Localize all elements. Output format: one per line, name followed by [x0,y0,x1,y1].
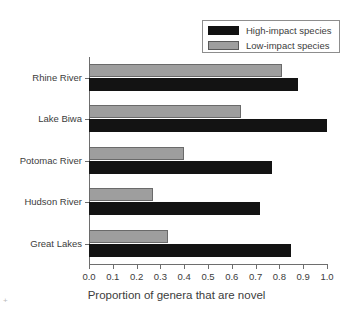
x-axis-tick [256,265,257,269]
bar-low-impact [89,188,153,201]
x-axis-tick [327,265,328,269]
x-axis-ticks: 0.00.10.20.30.40.50.60.70.80.91.0 [89,265,328,287]
legend-swatch-low-impact [208,41,239,50]
legend-label-low-impact: Low-impact species [246,40,329,51]
x-axis-title: Proportion of genera that are novel [0,288,353,302]
bar-low-impact [89,230,168,243]
y-axis-label: Great Lakes [0,238,82,249]
y-axis-tick [85,119,89,120]
bar-high-impact [89,119,327,132]
y-axis-label: Hudson River [0,196,82,207]
bar-high-impact [89,202,260,215]
x-axis-tick-label: 0.3 [147,271,173,282]
bar-group [89,105,327,134]
x-axis-tick [137,265,138,269]
bar-group [89,230,327,259]
legend-entry-low-impact: Low-impact species [208,39,335,52]
bar-low-impact [89,105,241,118]
bar-high-impact [89,161,272,174]
x-axis-tick [160,265,161,269]
corner-artifact: + [3,297,8,305]
legend-label-high-impact: High-impact species [246,25,332,36]
y-axis-tick [85,161,89,162]
x-axis-tick-label: 0.6 [219,271,245,282]
x-axis-tick [89,265,90,269]
plot-area [89,57,327,264]
x-axis-tick [232,265,233,269]
bar-low-impact [89,64,282,77]
x-axis-tick [279,265,280,269]
bar-group [89,147,327,176]
x-axis-tick [184,265,185,269]
bar-group [89,64,327,93]
x-axis-tick-label: 1.0 [314,271,340,282]
bar-chart: High-impact species Low-impact species R… [0,0,353,316]
legend-swatch-high-impact [208,26,239,35]
y-axis-label: Potomac River [0,155,82,166]
y-axis-tick [85,78,89,79]
y-axis-tick [85,244,89,245]
x-axis-tick-label: 0.8 [266,271,292,282]
x-axis-tick [303,265,304,269]
x-axis-tick [113,265,114,269]
x-axis-tick-label: 0.4 [171,271,197,282]
y-axis-tick [85,202,89,203]
bar-group [89,188,327,217]
x-axis-tick-label: 0.9 [290,271,316,282]
x-axis-tick-label: 0.7 [243,271,269,282]
bar-low-impact [89,147,184,160]
x-axis-tick [208,265,209,269]
y-axis-label: Lake Biwa [0,113,82,124]
bar-high-impact [89,78,298,91]
x-axis-tick-label: 0.2 [124,271,150,282]
x-axis-tick-label: 0.5 [195,271,221,282]
x-axis-tick-label: 0.1 [100,271,126,282]
x-axis-tick-label: 0.0 [76,271,102,282]
chart-legend: High-impact species Low-impact species [202,20,340,53]
y-axis-label: Rhine River [0,72,82,83]
legend-entry-high-impact: High-impact species [208,24,335,37]
bar-high-impact [89,244,291,257]
